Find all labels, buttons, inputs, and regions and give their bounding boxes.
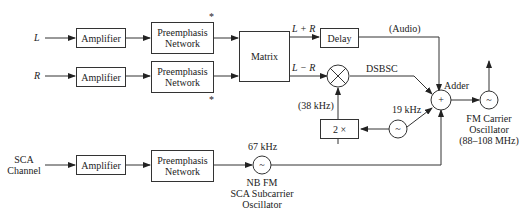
adder-label: Adder [444, 80, 469, 91]
amplifier-r-block: Amplifier [76, 67, 126, 87]
19khz-label: 19 kHz [392, 104, 421, 115]
pilot-oscillator-icon: ~ [391, 123, 405, 134]
38khz-label: (38 kHz) [298, 100, 334, 111]
audio-label: (Audio) [389, 23, 421, 34]
preemphasis-sca-block: Preemphasis Network [151, 150, 214, 182]
asterisk-bottom: * [209, 94, 214, 105]
asterisk-top: * [209, 11, 214, 22]
input-sca-label: SCA Channel [6, 154, 42, 176]
amplifier-l-block: Amplifier [76, 28, 126, 48]
preemphasis-l-block: Preemphasis Network [151, 22, 214, 54]
amplifier-sca-block: Amplifier [76, 155, 126, 175]
l-minus-r-label: L − R [292, 62, 315, 73]
fm-oscillator-icon: ~ [482, 94, 496, 105]
sca-oscillator-icon: ~ [255, 159, 269, 170]
sca-oscillator-label: NB FM SCA Subcarrier Oscillator [212, 177, 312, 210]
adder-plus-icon: + [434, 94, 448, 105]
preemphasis-r-block: Preemphasis Network [151, 61, 214, 93]
fm-oscillator-label: FM Carrier Oscillator (88–108 MHz) [454, 113, 524, 146]
67khz-label: 67 kHz [248, 141, 277, 152]
delay-block: Delay [320, 28, 359, 48]
input-l-label: L [34, 32, 40, 43]
dsbsc-label: DSBSC [366, 63, 398, 74]
matrix-block: Matrix [239, 31, 290, 82]
input-r-label: R [34, 70, 40, 81]
doubler-block: 2 × [320, 119, 359, 139]
l-plus-r-label: L + R [292, 23, 315, 34]
